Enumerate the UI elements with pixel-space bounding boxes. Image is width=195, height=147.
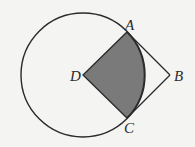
diagram-svg: A B C D	[0, 0, 195, 147]
label-d: D	[69, 68, 81, 84]
geometry-diagram: A B C D	[0, 0, 195, 147]
label-b: B	[174, 68, 183, 84]
shaded-sector-dac	[83, 32, 144, 118]
label-a: A	[124, 17, 135, 33]
label-c: C	[124, 120, 135, 136]
